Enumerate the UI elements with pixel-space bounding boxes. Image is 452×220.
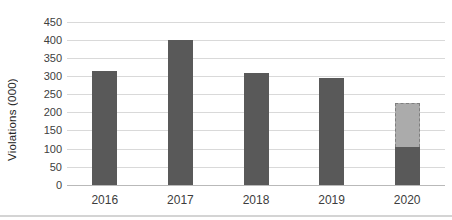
gridline-450	[67, 22, 445, 23]
x-tick-label-2017: 2017	[143, 194, 219, 207]
x-tick-label-2016: 2016	[67, 194, 143, 207]
bar-2017	[168, 40, 193, 185]
bottom-divider	[0, 215, 452, 217]
gridline-350	[67, 58, 445, 59]
y-tick-label-400: 400	[34, 35, 62, 46]
gridline-400	[67, 40, 445, 41]
y-tick-label-450: 450	[34, 17, 62, 28]
bar-2019	[319, 78, 344, 186]
x-tick-label-2020: 2020	[369, 194, 445, 207]
y-tick-label-300: 300	[34, 71, 62, 82]
bar-2018	[244, 73, 269, 185]
y-tick-label-150: 150	[34, 125, 62, 136]
y-tick-label-350: 350	[34, 53, 62, 64]
bar-projected-2020	[395, 103, 420, 147]
bar-chart: Violations (000) 05010015020025030035040…	[0, 0, 452, 220]
y-tick-label-50: 50	[34, 162, 62, 173]
y-axis-title: Violations (000)	[4, 48, 20, 192]
y-tick-label-200: 200	[34, 107, 62, 118]
bar-2020	[395, 147, 420, 185]
x-tick-label-2018: 2018	[218, 194, 294, 207]
y-tick-label-100: 100	[34, 144, 62, 155]
bar-2016	[92, 71, 117, 185]
y-tick-label-0: 0	[34, 180, 62, 191]
x-tick-label-2019: 2019	[294, 194, 370, 207]
y-tick-label-250: 250	[34, 89, 62, 100]
